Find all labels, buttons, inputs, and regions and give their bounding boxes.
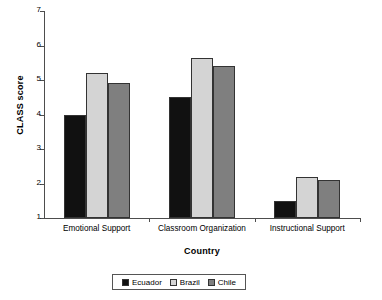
y-tick-label: 6: [21, 40, 41, 50]
legend-label: Chile: [218, 278, 236, 287]
y-tick-label: 7: [21, 5, 41, 15]
legend-item: Chile: [208, 278, 236, 287]
plot-area: 1234567 Emotional SupportClassroom Organ…: [44, 11, 360, 218]
legend-label: Ecuador: [132, 278, 162, 287]
y-tick-label: 2: [21, 178, 41, 188]
bar: [86, 73, 108, 218]
y-tick-label: 3: [21, 143, 41, 153]
y-tick-label: 4: [21, 109, 41, 119]
category-label: Classroom Organization: [149, 224, 254, 234]
category-label: Instructional Support: [255, 224, 360, 234]
legend-swatch-icon: [170, 279, 177, 286]
y-axis-line: [44, 11, 45, 218]
bar: [296, 177, 318, 218]
legend-item: Brazil: [170, 278, 200, 287]
bar-chart: CLASS score 1234567 Emotional SupportCla…: [0, 0, 382, 300]
bar: [274, 201, 296, 218]
bar: [213, 66, 235, 218]
bar: [318, 180, 340, 218]
category-label: Emotional Support: [44, 224, 149, 234]
y-tick-label: 5: [21, 74, 41, 84]
bar: [108, 83, 130, 218]
legend-item: Ecuador: [122, 278, 162, 287]
bar: [191, 58, 213, 218]
legend-swatch-icon: [122, 279, 129, 286]
x-axis-title: Country: [44, 246, 360, 256]
x-tick-mark: [255, 218, 256, 222]
y-tick-label: 1: [21, 212, 41, 222]
legend-label: Brazil: [180, 278, 200, 287]
x-axis-line: [44, 218, 360, 219]
bar: [169, 97, 191, 218]
bar: [64, 115, 86, 219]
x-tick-mark: [149, 218, 150, 222]
x-tick-mark: [360, 218, 361, 222]
legend-swatch-icon: [208, 279, 215, 286]
chart-legend: EcuadorBrazilChile: [112, 274, 246, 290]
